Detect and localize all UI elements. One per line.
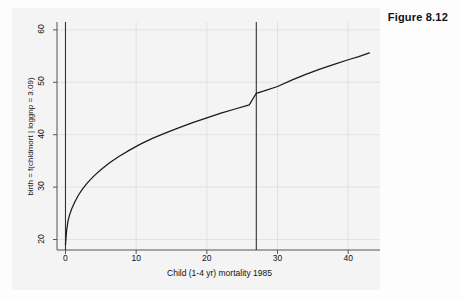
y-tick-label: 50 <box>36 70 46 92</box>
y-tick-label: 20 <box>36 228 46 250</box>
reference-lines <box>65 22 256 250</box>
chart-plot-area: Child (1-4 yr) mortality 1985 birth = f(… <box>0 0 462 300</box>
axis-lines <box>57 22 380 250</box>
x-tick-label: 40 <box>335 253 361 263</box>
x-tick-label: 0 <box>52 253 78 263</box>
y-tick-label: 30 <box>36 175 46 197</box>
y-tick-label: 60 <box>36 18 46 40</box>
x-tick-label: 20 <box>194 253 220 263</box>
grid-lines <box>57 22 380 250</box>
data-series-line <box>65 53 369 245</box>
x-tick-label: 10 <box>123 253 149 263</box>
tick-marks <box>53 30 348 254</box>
y-axis-title: birth = f(chldmort | loggnp = 3.09) <box>26 37 35 237</box>
x-axis-title: Child (1-4 yr) mortality 1985 <box>57 268 382 278</box>
y-tick-label: 40 <box>36 123 46 145</box>
series-line-birth <box>65 53 369 245</box>
x-tick-label: 30 <box>265 253 291 263</box>
page-root: Figure 8.12 Child (1-4 yr) mortality 198… <box>0 0 462 300</box>
